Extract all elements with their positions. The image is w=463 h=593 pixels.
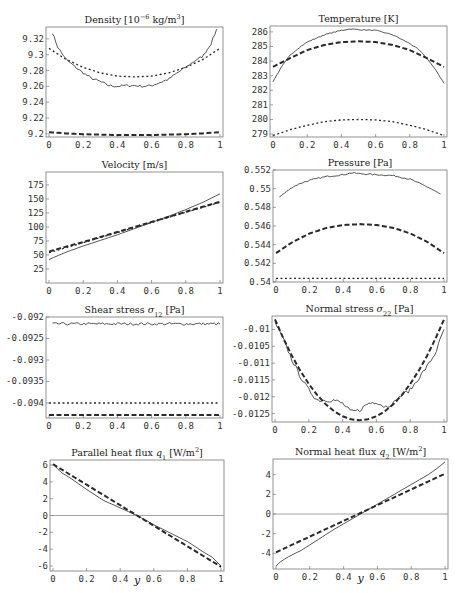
x-tick-label: 0 [270,140,275,150]
chart-normal-stress: Normal stress σ22 [Pa]00.20.40.60.81-0.0… [232,303,447,435]
x-tick-label: 0.6 [368,425,384,435]
x-tick-label: 1 [218,574,223,584]
x-tick-label: 1 [217,421,222,431]
y-tick-label: -0.094 [11,398,44,408]
x-tick-label: 0.4 [109,286,125,296]
series-model-B [273,41,444,67]
x-tick-label: 0.4 [333,140,349,150]
x-tick-label: 0 [46,421,51,431]
series-model-A [49,48,220,77]
y-tick-label: 284 [252,56,268,66]
chart-title: Density [10−6 kg/m3] [85,13,185,25]
chart-normal-heat-flux: Normal heat flux q2 [W/m2]00.20.40.60.81… [260,445,448,585]
x-tick-label: 0 [46,286,51,296]
y-tick-label: 283 [252,71,268,81]
x-tick-label: 0.6 [146,574,162,584]
figure-grid: Density [10−6 kg/m3]00.20.40.60.819.29.2… [0,0,463,593]
y-tick-label: 281 [252,100,268,110]
y-tick-label: 2 [43,494,48,504]
y-tick-label: 0.544 [244,240,271,250]
x-tick-label: 0.6 [143,286,159,296]
x-tick-label: 0.6 [369,572,385,582]
x-tick-label: 0.8 [179,574,195,584]
y-tick-label: 9.24 [22,97,44,107]
y-tick-label: 9.22 [22,113,44,123]
x-tick-label: 1 [217,286,222,296]
y-tick-label: 125 [28,208,44,218]
y-tick-label: -0.0105 [232,341,270,351]
chart-title: Pressure [Pa] [328,157,393,168]
y-tick-label: 0.54 [249,277,271,287]
x-tick-label: 0.8 [178,286,194,296]
figure-canvas: Density [10−6 kg/m3]00.20.40.60.819.29.2… [0,0,463,593]
y-tick-label: 0.55 [249,184,271,194]
y-tick-label: 0.546 [244,221,271,231]
x-tick-label: 0 [272,425,277,435]
y-tick-label: 9.3 [28,50,44,60]
y-tick-label: -0.0925 [6,333,44,343]
x-tick-label: 1 [441,285,446,295]
x-tick-label: 0.8 [402,140,418,150]
x-tick-label: 0.2 [75,140,91,150]
x-tick-label: 0.8 [178,140,194,150]
x-tick-label: 0.2 [78,574,94,584]
x-tick-label: 1 [441,140,446,150]
y-tick-label: 50 [33,250,44,260]
y-tick-label: -0.012 [237,392,270,402]
chart-title: Temperature [K] [319,13,399,24]
y-tick-label: 2 [266,489,271,499]
y-tick-label: -0.0935 [6,376,44,386]
x-tick-label: 0.6 [143,140,159,150]
y-tick-label: -0.01 [243,324,270,334]
plot-frame [46,27,223,137]
x-axis-label: y [133,574,141,587]
series-simulation [275,321,444,411]
y-tick-label: 0 [43,511,48,521]
y-tick-label: 279 [252,129,268,139]
x-tick-label: 0.2 [75,421,91,431]
y-tick-label: -0.011 [237,358,270,368]
x-tick-label: 0.8 [178,421,194,431]
y-tick-label: 9.28 [22,66,44,76]
y-tick-label: 4 [266,470,271,480]
x-tick-label: 0.2 [301,285,317,295]
x-tick-label: 0.2 [302,572,318,582]
y-tick-label: 282 [252,85,268,95]
series-simulation [52,323,220,326]
y-tick-label: 280 [252,114,268,124]
x-tick-label: 0.4 [335,285,351,295]
series-model-B [49,202,220,252]
y-tick-label: -0.093 [11,355,44,365]
series-model-B [276,224,444,253]
x-tick-label: 0.4 [334,425,350,435]
plot-frame [273,170,447,282]
x-tick-label: 0.4 [112,574,128,584]
y-tick-label: -2 [37,527,48,537]
x-tick-label: 0.6 [369,285,385,295]
chart-temperature: Temperature [K]00.20.40.60.8127928028128… [252,13,447,150]
x-tick-label: 0.2 [301,425,317,435]
x-axis-label: y [356,572,364,585]
y-tick-label: 9.26 [22,81,44,91]
x-tick-label: 0.4 [109,421,125,431]
y-tick-label: -0.0115 [232,375,270,385]
x-tick-label: 0.4 [109,140,125,150]
series-model-A [273,120,444,136]
y-tick-label: -6 [37,561,48,571]
y-tick-label: 175 [28,180,44,190]
y-tick-label: 285 [252,41,268,51]
chart-shear-stress: Shear stress σ12 [Pa]00.20.40.60.81-0.09… [6,304,223,431]
y-tick-label: 9.32 [22,34,44,44]
y-tick-label: 0 [266,509,271,519]
y-tick-label: -4 [37,544,48,554]
y-tick-label: 0.552 [244,165,271,175]
y-tick-label: 25 [33,264,44,274]
series-simulation [49,194,220,260]
x-tick-label: 0.6 [367,140,383,150]
plot-frame [46,172,223,283]
x-tick-label: 1 [441,425,446,435]
y-tick-label: 9.2 [28,129,44,139]
x-tick-label: 0 [46,140,51,150]
series-model-B [275,319,444,420]
x-tick-label: 0.2 [299,140,315,150]
